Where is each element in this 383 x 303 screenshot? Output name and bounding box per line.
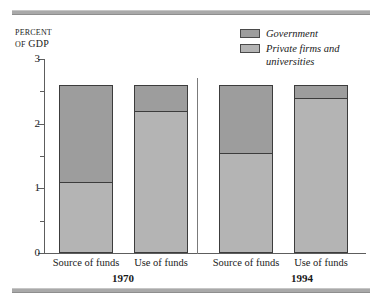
bar-1970-use-of-funds[interactable]	[134, 85, 188, 253]
bar-1970-source-of-funds[interactable]	[59, 85, 113, 253]
bar-segment-government[interactable]	[59, 85, 113, 183]
bar-segment-private[interactable]	[294, 98, 348, 253]
bar-segment-private[interactable]	[219, 153, 273, 253]
bar-1994-source-of-funds[interactable]	[219, 85, 273, 253]
y-tick-label-3: 3	[20, 53, 40, 64]
bar-segment-government[interactable]	[294, 85, 348, 99]
y-tick-minor-3	[40, 156, 45, 157]
bar-segment-private[interactable]	[59, 182, 113, 253]
group-divider	[197, 78, 198, 254]
x-axis-line	[44, 253, 366, 254]
bar-segment-private[interactable]	[134, 111, 188, 253]
bar-segment-government[interactable]	[219, 85, 273, 154]
category-label-3: Use of funds	[271, 257, 371, 269]
y-tick-minor-1	[40, 91, 45, 92]
chart-plot-area: 3210 Source of fundsUse of fundsSource o…	[0, 0, 383, 303]
group-label-1970: 1970	[63, 272, 183, 284]
bar-1994-use-of-funds[interactable]	[294, 85, 348, 253]
bar-segment-government[interactable]	[134, 85, 188, 112]
group-label-1994: 1994	[242, 272, 362, 284]
y-tick-minor-5	[40, 221, 45, 222]
y-tick-label-2: 2	[20, 118, 40, 129]
y-tick-label-1: 1	[20, 182, 40, 193]
